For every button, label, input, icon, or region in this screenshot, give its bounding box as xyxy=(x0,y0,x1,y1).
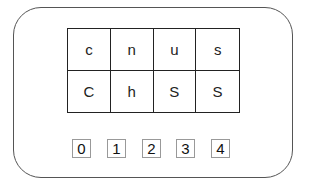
index-box: 3 xyxy=(176,139,195,158)
letter-grid: c n u s C h S S xyxy=(67,28,240,113)
index-box: 4 xyxy=(211,139,230,158)
grid-cell: h xyxy=(111,71,154,113)
index-box: 0 xyxy=(72,139,91,158)
grid-cell: n xyxy=(111,29,154,71)
grid-cell: u xyxy=(154,29,197,71)
grid-cell: S xyxy=(196,71,239,113)
grid-cell: c xyxy=(68,29,111,71)
grid-cell: S xyxy=(154,71,197,113)
grid-cell: C xyxy=(68,71,111,113)
index-box: 2 xyxy=(142,139,161,158)
grid-cell: s xyxy=(196,29,239,71)
index-box: 1 xyxy=(107,139,126,158)
